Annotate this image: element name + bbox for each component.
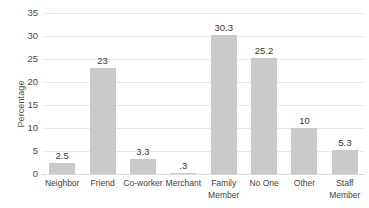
bar-group: 5.3 xyxy=(325,13,365,174)
bar-chart: Percentage 05101520253035 2.5233.3.330.3… xyxy=(0,0,369,208)
bar[interactable] xyxy=(49,163,75,175)
bar-value-label: 25.2 xyxy=(255,46,274,56)
bar[interactable] xyxy=(291,128,317,174)
bar-value-label: .3 xyxy=(179,161,187,171)
axis-baseline xyxy=(42,174,365,175)
x-axis-category-labels: NeighborFriendCo-workerMerchantFamily Me… xyxy=(42,178,365,208)
y-axis-tick-label: 35 xyxy=(16,8,38,18)
x-axis-category-label: Friend xyxy=(82,178,122,190)
y-axis-tick-label: 20 xyxy=(16,77,38,87)
x-axis-category-label: Merchant xyxy=(163,178,203,190)
y-axis-tick-label: 30 xyxy=(16,31,38,41)
x-axis-category-label: Other xyxy=(284,178,324,190)
bar-group: 10 xyxy=(284,13,324,174)
x-axis-category-label: No One xyxy=(244,178,284,190)
x-axis-category-label: Co-worker xyxy=(123,178,163,190)
y-axis-tick-label: 10 xyxy=(16,123,38,133)
bar[interactable] xyxy=(332,150,358,174)
bar-group: 3.3 xyxy=(123,13,163,174)
bar-value-label: 2.5 xyxy=(56,151,69,161)
bar-value-label: 30.3 xyxy=(214,23,233,33)
y-axis-tick-label: 0 xyxy=(16,169,38,179)
y-axis-tick-label: 25 xyxy=(16,54,38,64)
bar-value-label: 3.3 xyxy=(136,147,149,157)
bar[interactable] xyxy=(211,35,237,174)
x-axis-category-label: Family Member xyxy=(204,178,244,201)
bar-group: 30.3 xyxy=(204,13,244,174)
bar[interactable] xyxy=(90,68,116,174)
bar[interactable] xyxy=(170,173,196,175)
y-axis-tick-labels: 05101520253035 xyxy=(16,0,38,208)
x-axis-category-label: Neighbor xyxy=(42,178,82,190)
y-axis-tick-label: 5 xyxy=(16,146,38,156)
bar-value-label: 5.3 xyxy=(338,138,351,148)
bar-value-label: 23 xyxy=(97,56,108,66)
bar-group: 25.2 xyxy=(244,13,284,174)
bar-series: 2.5233.3.330.325.2105.3 xyxy=(42,13,365,174)
bar-value-label: 10 xyxy=(299,116,310,126)
bar-group: .3 xyxy=(163,13,203,174)
bar-group: 2.5 xyxy=(42,13,82,174)
bar[interactable] xyxy=(251,58,277,174)
y-axis-tick-label: 15 xyxy=(16,100,38,110)
x-axis-category-label: Staff Member xyxy=(325,178,365,201)
bar[interactable] xyxy=(130,159,156,174)
plot-area: 2.5233.3.330.325.2105.3 xyxy=(42,13,365,174)
bar-group: 23 xyxy=(82,13,122,174)
